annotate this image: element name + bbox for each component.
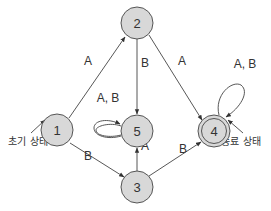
state-diagram: A B B A A B A, B A, B 초기 상태 종료 상태 1 — [0, 0, 271, 211]
svg-text:2: 2 — [133, 16, 140, 31]
edge-3-4: B — [149, 142, 201, 176]
svg-text:B: B — [179, 142, 187, 156]
svg-text:5: 5 — [133, 124, 140, 139]
state-node-5: 5 — [121, 115, 153, 147]
svg-text:3: 3 — [133, 180, 140, 195]
svg-text:A: A — [178, 54, 186, 68]
svg-text:B: B — [84, 149, 92, 163]
svg-text:4: 4 — [210, 124, 217, 139]
state-node-3: 3 — [121, 171, 153, 203]
edge-1-3: B — [70, 143, 124, 177]
svg-text:A: A — [84, 54, 92, 68]
svg-text:초기 상태: 초기 상태 — [8, 136, 47, 147]
self-loop-4: A, B — [218, 57, 256, 117]
svg-text:1: 1 — [53, 123, 60, 138]
state-node-2: 2 — [121, 7, 153, 39]
state-node-4-accepting: 4 — [198, 115, 230, 147]
svg-text:B: B — [141, 56, 149, 70]
edge-2-5: B — [137, 39, 149, 114]
svg-text:A, B: A, B — [97, 91, 120, 105]
state-node-1: 1 — [41, 114, 73, 146]
self-loop-5: A, B — [94, 91, 121, 138]
svg-text:A, B: A, B — [234, 57, 257, 71]
edge-1-2: A — [69, 37, 125, 118]
edge-2-4: A — [149, 35, 202, 120]
